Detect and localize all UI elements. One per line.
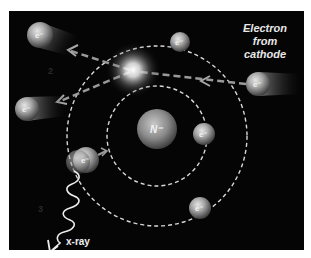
electron-label: e⁻ bbox=[195, 204, 203, 213]
caption-line: Electron bbox=[228, 22, 302, 35]
xray-arrowhead bbox=[48, 240, 58, 252]
electron-label: e⁻ bbox=[253, 80, 261, 89]
xray-label: x-ray bbox=[66, 236, 90, 247]
incoming-electron-caption: Electron from cathode bbox=[228, 22, 302, 61]
nucleus-label: N⁻ bbox=[150, 124, 164, 135]
shell-label-2: 2 bbox=[48, 66, 53, 76]
electron-label: e⁻ bbox=[81, 156, 89, 165]
electron-label: e⁻ bbox=[175, 38, 183, 47]
caption-line: cathode bbox=[228, 48, 302, 61]
shell-label-3: 3 bbox=[38, 204, 43, 214]
caption-line: from bbox=[228, 35, 302, 48]
electron-label: e⁻ bbox=[199, 130, 207, 139]
collision-flash bbox=[105, 42, 161, 98]
electron-label: e⁻ bbox=[35, 31, 43, 40]
electron-label: e⁻ bbox=[22, 105, 30, 114]
